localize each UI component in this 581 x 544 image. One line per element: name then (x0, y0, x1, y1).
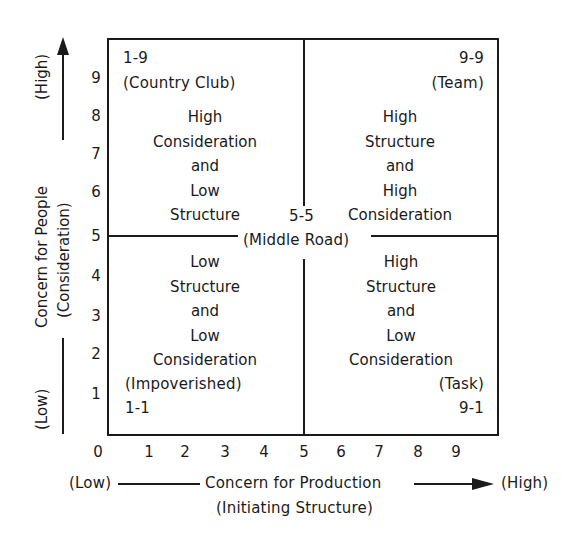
description-line: and (140, 154, 270, 179)
y-tick-1: 1 (86, 385, 106, 403)
description-line: Consideration (140, 130, 270, 155)
quadrant-code-9-9: 9-9 (459, 46, 484, 70)
description-line: High (336, 250, 466, 275)
x-tick-0: 0 (88, 443, 108, 461)
description-line: Low (336, 324, 466, 349)
description-line: Low (140, 324, 270, 349)
quadrant-description: High Structure and High Consideration (335, 105, 465, 228)
vertical-divider-bottom (303, 259, 305, 434)
x-tick-6: 6 (331, 443, 351, 461)
arrow-right-icon (472, 478, 494, 490)
y-tick-4: 4 (86, 267, 106, 285)
x-axis-high-label: (High) (501, 471, 548, 495)
description-line: High (335, 105, 465, 130)
y-axis-line-upper (62, 52, 64, 140)
quadrant-description: Low Structure and Low Consideration (140, 250, 270, 373)
description-line: Structure (335, 130, 465, 155)
description-line: Low (140, 250, 270, 275)
quadrant-code-1-1: 1-1 (125, 396, 150, 420)
y-axis-low-label: (Low) (32, 389, 52, 430)
x-axis-line-right (414, 483, 476, 485)
description-line: High (140, 105, 270, 130)
quadrant-description: High Consideration and Low Structure (140, 105, 270, 228)
x-tick-8: 8 (408, 443, 428, 461)
quadrant-style-impoverished: (Impoverished) (125, 372, 242, 396)
description-line: Consideration (140, 348, 270, 373)
y-axis-high-label: (High) (32, 54, 52, 100)
horizontal-divider-right (371, 235, 497, 237)
center-style-middle-road: (Middle Road) (243, 228, 349, 252)
description-line: Consideration (335, 203, 465, 228)
description-line: Structure (140, 203, 270, 228)
description-line: and (336, 299, 466, 324)
description-line: Low (140, 179, 270, 204)
y-tick-8: 8 (86, 107, 106, 125)
y-tick-7: 7 (86, 145, 106, 163)
quadrant-style-country-club: (Country Club) (123, 71, 236, 95)
x-tick-1: 1 (139, 443, 159, 461)
y-tick-2: 2 (86, 345, 106, 363)
quadrant-code-1-9: 1-9 (123, 46, 148, 70)
x-tick-2: 2 (175, 443, 195, 461)
y-axis-title: Concern for People (32, 186, 52, 328)
description-line: Structure (336, 275, 466, 300)
x-tick-5: 5 (294, 443, 314, 461)
x-tick-9: 9 (446, 443, 466, 461)
description-line: High (335, 179, 465, 204)
x-axis-line-left (118, 483, 200, 485)
x-axis-title: Concern for Production (205, 471, 381, 495)
y-tick-3: 3 (86, 307, 106, 325)
arrow-up-icon (57, 37, 69, 55)
y-tick-6: 6 (86, 183, 106, 201)
description-line: Consideration (336, 348, 466, 373)
quadrant-style-team: (Team) (431, 71, 484, 95)
x-axis-subtitle: (Initiating Structure) (216, 496, 373, 520)
quadrant-description: High Structure and Low Consideration (336, 250, 466, 373)
center-code-5-5: 5-5 (289, 204, 314, 228)
description-line: and (335, 154, 465, 179)
horizontal-divider-left (107, 235, 238, 237)
x-tick-4: 4 (254, 443, 274, 461)
y-tick-9: 9 (86, 69, 106, 87)
y-axis-subtitle: (Consideration) (54, 202, 74, 318)
vertical-divider-top (303, 38, 305, 206)
quadrant-style-task: (Task) (439, 372, 484, 396)
y-tick-5: 5 (86, 227, 106, 245)
x-axis-low-label: (Low) (69, 471, 111, 495)
description-line: Structure (140, 275, 270, 300)
y-axis-line-lower (62, 338, 64, 434)
quadrant-code-9-1: 9-1 (459, 396, 484, 420)
x-tick-7: 7 (369, 443, 389, 461)
x-tick-3: 3 (215, 443, 235, 461)
description-line: and (140, 299, 270, 324)
